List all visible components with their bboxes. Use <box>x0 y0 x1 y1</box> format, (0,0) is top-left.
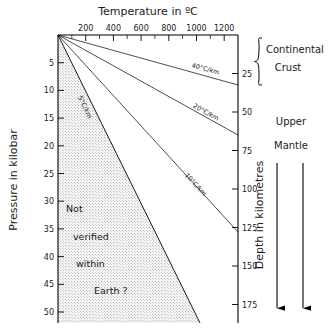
x-ticklabel-800: 800 <box>161 24 176 33</box>
annotation-mantle: Mantle <box>274 140 308 151</box>
y2-ticklabel-25: 25 <box>242 70 252 79</box>
y-ticklabel-5: 5 <box>49 59 54 68</box>
y-ticklabel-50: 50 <box>44 308 54 317</box>
y-ticklabel-35: 35 <box>44 225 54 234</box>
y-ticklabel-40: 40 <box>44 253 54 262</box>
x-axis-title: Temperature in ºC <box>97 5 198 18</box>
region-text-line3: within <box>76 258 105 269</box>
x-ticklabel-400: 400 <box>106 24 121 33</box>
y-ticklabel-15: 15 <box>44 114 54 123</box>
y2-ticklabel-75: 75 <box>242 147 252 156</box>
region-text-line2: verified <box>73 231 109 242</box>
region-text-line1: Not <box>66 203 83 214</box>
x-ticklabel-1200: 1200 <box>214 24 234 33</box>
annotation-continental: Continental <box>266 44 324 55</box>
y-ticklabel-45: 45 <box>44 280 54 289</box>
y-axis-title: Pressure in kilobar <box>7 129 20 231</box>
y-ticklabel-10: 10 <box>44 86 54 95</box>
region-text-line4: Earth ? <box>94 285 128 296</box>
y2-axis-title: Depth in kilometres <box>253 161 266 270</box>
x-ticklabel-600: 600 <box>133 24 148 33</box>
x-ticklabel-1000: 1000 <box>186 24 206 33</box>
annotation-upper: Upper <box>276 116 307 127</box>
y2-ticklabel-50: 50 <box>242 108 252 117</box>
y-ticklabel-30: 30 <box>44 197 54 206</box>
annotation-crust: Crust <box>275 62 302 73</box>
y2-ticklabel-175: 175 <box>242 301 257 310</box>
x-ticklabel-200: 200 <box>78 24 93 33</box>
geothermal-gradient-chart: 200 400 600 800 1000 1200 Temperature in… <box>0 0 329 333</box>
y-ticklabel-25: 25 <box>44 170 54 179</box>
y-ticklabel-20: 20 <box>44 142 54 151</box>
figure-root: 200 400 600 800 1000 1200 Temperature in… <box>0 0 329 333</box>
